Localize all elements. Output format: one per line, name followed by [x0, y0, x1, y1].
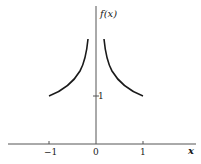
x-tick-label-1: 1 — [140, 147, 146, 157]
chart: f(x) x −1 0 1 1 — [0, 0, 201, 164]
left-branch-curve — [49, 39, 88, 96]
x-axis-label: x — [187, 145, 195, 156]
y-axis-label: f(x) — [99, 8, 117, 19]
x-tick-label-neg1: −1 — [44, 147, 57, 157]
x-tick-label-0: 0 — [93, 147, 99, 157]
right-branch-curve — [104, 39, 143, 96]
y-tick-label-1: 1 — [98, 91, 104, 101]
